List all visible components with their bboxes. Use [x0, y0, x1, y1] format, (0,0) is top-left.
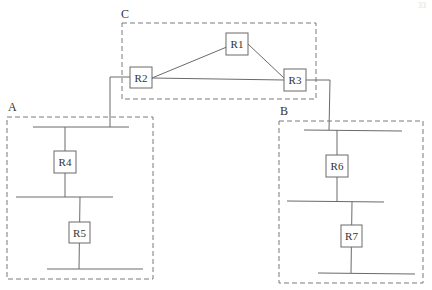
link-r1-r3: [248, 44, 284, 78]
router-r7-label: R7: [345, 230, 358, 242]
area-b-label: B: [280, 104, 288, 118]
area-c-label: C: [121, 7, 129, 21]
router-r7: R7: [341, 225, 362, 247]
router-r4-label: R4: [59, 156, 72, 168]
router-r3-label: R3: [289, 74, 302, 86]
router-r5: R5: [69, 222, 90, 243]
link-r2-r3: [152, 78, 284, 80]
page-number-mark: 33: [418, 1, 426, 10]
router-r4: R4: [54, 151, 76, 173]
link-r2-r1: [152, 44, 234, 78]
b-segment-1: [304, 130, 402, 131]
b-segment-2: [287, 201, 384, 202]
b-segment-3: [318, 273, 415, 274]
router-r1: R1: [226, 33, 248, 55]
router-r1-label: R1: [231, 38, 244, 50]
network-diagram: C A B R1 R2 R3 R4: [0, 0, 432, 290]
router-r3: R3: [284, 69, 306, 91]
link-r3-to-b: [329, 80, 330, 130]
area-a-label: A: [8, 100, 17, 114]
router-r2-label: R2: [135, 72, 148, 84]
router-r6-label: R6: [331, 160, 344, 172]
router-r5-label: R5: [73, 227, 86, 239]
router-r2: R2: [130, 67, 152, 88]
router-r6: R6: [326, 155, 348, 177]
